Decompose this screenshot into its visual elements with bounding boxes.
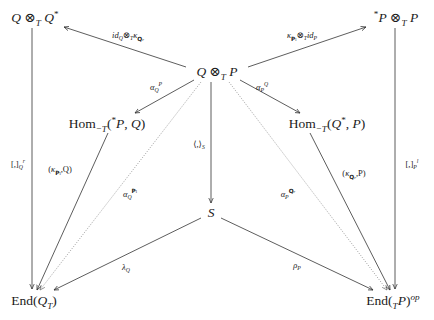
label-sup: Q — [264, 81, 268, 87]
symbol: P — [407, 10, 419, 25]
label-bracket-P-l: [,]Pl — [406, 160, 419, 169]
label-sub: P — [314, 35, 318, 41]
symbol: Q — [331, 116, 341, 131]
label-rho-P: ρP — [293, 261, 301, 270]
label-kappa-Qr-P: (κQr,P) — [342, 169, 365, 178]
node-End-Q: End(QT) — [11, 294, 57, 308]
paren: ) — [141, 116, 146, 131]
symbol: Q — [37, 293, 47, 308]
label-alpha-P-Q: αPQ — [256, 83, 268, 92]
tensor-symbol: ⊗ — [21, 10, 36, 25]
label-sub: P — [297, 265, 301, 271]
node-hom-right: Hom−T(Q*, P) — [289, 117, 366, 131]
subscript: −T — [316, 124, 327, 134]
edge-S-to-EndQ — [54, 218, 201, 290]
superscript: * — [54, 9, 59, 19]
label-sub: Q — [126, 267, 130, 273]
end-text: End — [366, 293, 388, 308]
label-part: ⟨,⟩ — [193, 139, 202, 149]
label-id-tensor-kappa: idQ⊗TκQr — [112, 31, 144, 40]
label-alpha-Q-P: αQP — [150, 83, 162, 92]
label-kappa-Pl-Q: (κPl,Q) — [48, 165, 72, 174]
symbol: Q — [196, 64, 206, 79]
label-supsub: r — [294, 189, 296, 194]
label-part: [,] — [11, 159, 19, 169]
label-sub: Q — [127, 194, 131, 200]
symbol: P — [398, 293, 406, 308]
label-lambda-Q: λQ — [122, 263, 130, 272]
edge-HomLeft-to-EndQ — [37, 133, 108, 290]
label-sub: P — [285, 194, 289, 200]
edge-S-to-EndP — [221, 218, 373, 290]
symbol: Q — [131, 116, 141, 131]
paren: ) — [52, 293, 57, 308]
label-sup: l — [417, 158, 419, 164]
label-part: [,] — [406, 159, 414, 169]
label-sub: Q — [154, 87, 158, 93]
label-alpha-Q-Pl: αQPl — [123, 190, 137, 199]
label-part: ,P) — [356, 168, 366, 178]
node-starP-tensor-P: *P ⊗T P — [374, 11, 418, 25]
tensor-symbol: ⊗ — [387, 10, 402, 25]
comma: , — [346, 116, 353, 131]
label-subsub: r — [142, 36, 144, 41]
superscript: op — [410, 292, 419, 302]
node-Q-tensor-P: Q ⊗T P — [196, 65, 237, 79]
label-part: ,Q) — [61, 164, 72, 174]
label-part: id — [112, 30, 119, 40]
node-Q-tensor-Qstar: Q ⊗T Q* — [11, 11, 58, 25]
diagram-edges — [0, 0, 434, 320]
symbol: S — [208, 205, 215, 220]
hom-text: Hom — [69, 116, 96, 131]
node-hom-left: Hom−T(*P, Q) — [69, 117, 146, 131]
edge-QxP-to-HomLeft — [135, 80, 194, 113]
symbol: Q — [11, 10, 21, 25]
node-S: S — [208, 206, 215, 220]
label-supsub: l — [136, 189, 137, 194]
label-bracket-Q-r: [,]Qr — [11, 160, 25, 169]
symbol: P — [353, 116, 361, 131]
subscript: −T — [96, 124, 107, 134]
label-sup: P — [159, 81, 163, 87]
symbol: Q — [41, 10, 54, 25]
end-text: End — [11, 293, 33, 308]
label-sub: S — [202, 144, 205, 150]
label-sup: r — [23, 158, 25, 164]
tensor-symbol: ⊗ — [297, 30, 304, 40]
label-sub: Q — [19, 164, 23, 170]
label-part: id — [307, 30, 314, 40]
symbol: P — [378, 10, 386, 25]
label-kappa-tensor-id: κPl⊗TidP — [287, 31, 317, 40]
node-End-P-op: End(TP)op — [366, 294, 419, 308]
symbol: P — [226, 64, 238, 79]
edge-QxP-to-EndQ-dotted — [40, 82, 201, 290]
tensor-symbol: ⊗ — [206, 64, 221, 79]
label-alpha-P-Qr: αPQr — [281, 190, 296, 199]
symbol: P — [116, 116, 124, 131]
label-sub: P — [260, 87, 264, 93]
hom-text: Hom — [289, 116, 316, 131]
edge-HomRight-to-EndP — [310, 133, 390, 290]
paren: ) — [361, 116, 366, 131]
label-pairing-S: ⟨,⟩S — [193, 140, 205, 149]
label-sub: P — [413, 164, 417, 170]
tensor-symbol: ⊗ — [123, 30, 130, 40]
